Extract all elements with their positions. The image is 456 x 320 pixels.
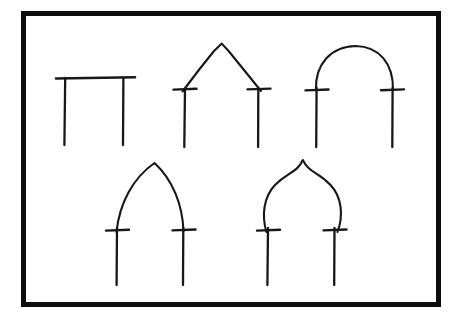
figure-hit-flat-lintel-arch[interactable] xyxy=(50,70,145,155)
diagram-page xyxy=(0,0,456,320)
figure-hit-ogee-onion-arch[interactable] xyxy=(253,154,349,290)
figure-hit-pointed-lancet-arch[interactable] xyxy=(102,157,198,290)
figure-hit-semicircular-round-arch[interactable] xyxy=(302,40,408,155)
figure-hit-triangular-gabled-arch[interactable] xyxy=(170,38,275,155)
